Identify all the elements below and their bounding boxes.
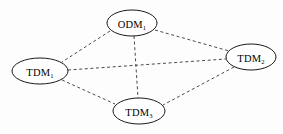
- edge-tdm1-tdm3: [62, 80, 115, 104]
- node-tdm2-subscript: 2: [261, 57, 265, 64]
- edge-odm1-tdm3: [134, 36, 138, 98]
- node-tdm3-label: TDM3: [125, 106, 153, 118]
- node-tdm1-base: TDM: [26, 66, 50, 77]
- node-tdm1-subscript: 1: [50, 71, 54, 78]
- node-tdm3[interactable]: TDM3: [113, 98, 165, 124]
- edge-tdm2-tdm3: [163, 67, 234, 105]
- edge-group: [62, 30, 234, 105]
- node-odm1-subscript: 1: [143, 23, 147, 30]
- node-tdm2-label: TDM2: [237, 52, 264, 64]
- node-tdm2[interactable]: TDM2: [226, 44, 276, 70]
- network-topology-diagram: ODM1 TDM1 TDM2 TDM3: [0, 0, 283, 134]
- edge-odm1-tdm1: [62, 31, 110, 62]
- node-tdm3-subscript: 3: [149, 111, 153, 118]
- node-odm1[interactable]: ODM1: [107, 10, 157, 36]
- node-odm1-label: ODM1: [118, 18, 147, 30]
- graph-canvas: ODM1 TDM1 TDM2 TDM3: [0, 0, 283, 134]
- node-tdm2-base: TDM: [237, 52, 261, 63]
- edge-tdm1-tdm2: [68, 59, 226, 70]
- node-tdm1[interactable]: TDM1: [12, 58, 68, 84]
- node-tdm3-base: TDM: [125, 106, 149, 117]
- edge-odm1-tdm2: [155, 30, 229, 51]
- node-tdm1-label: TDM1: [26, 66, 53, 78]
- node-odm1-base: ODM: [118, 18, 144, 29]
